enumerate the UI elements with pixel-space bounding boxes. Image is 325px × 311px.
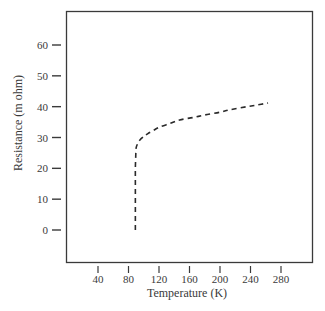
y-axis-ticks: 0102030405060: [37, 39, 61, 236]
y-tick-label: 60: [37, 39, 49, 51]
y-tick-label: 40: [37, 101, 49, 113]
x-tick-label: 120: [151, 273, 168, 285]
y-tick-label: 10: [37, 193, 49, 205]
resistance-temperature-chart: 0102030405060 4080120160200240280 Temper…: [0, 0, 325, 311]
x-tick-label: 200: [212, 273, 229, 285]
y-tick-label: 30: [37, 132, 49, 144]
y-tick-label: 0: [43, 224, 49, 236]
y-axis-title: Resistance (m ohm): [11, 75, 25, 171]
x-tick-label: 240: [242, 273, 259, 285]
x-tick-label: 80: [123, 273, 135, 285]
x-tick-label: 40: [93, 273, 105, 285]
resistance-curve: [135, 103, 268, 230]
plot-frame: [67, 12, 313, 263]
x-tick-label: 280: [273, 273, 290, 285]
chart-container: 0102030405060 4080120160200240280 Temper…: [0, 0, 325, 311]
y-tick-label: 50: [37, 70, 49, 82]
y-tick-label: 20: [37, 162, 49, 174]
x-tick-label: 160: [181, 273, 198, 285]
x-axis-ticks: 4080120160200240280: [93, 266, 290, 285]
x-axis-title: Temperature (K): [147, 286, 227, 300]
